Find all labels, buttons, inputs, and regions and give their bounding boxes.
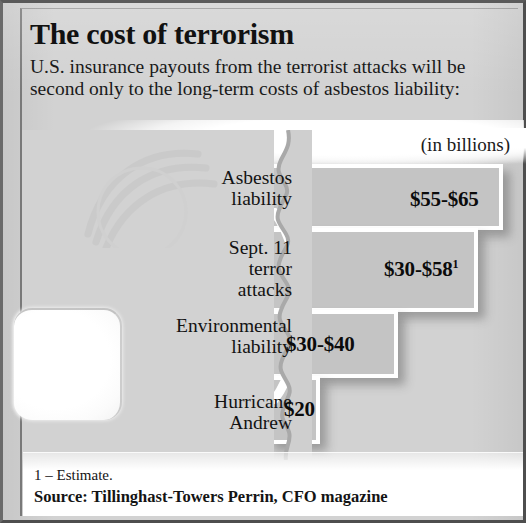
category-label-line1: Environmental	[176, 316, 292, 337]
category-label-line2: Andrew	[214, 413, 292, 434]
page-subtitle: U.S. insurance payouts from the terroris…	[30, 56, 490, 100]
source-line: Source: Tillinghast-Towers Perrin, CFO m…	[34, 487, 504, 507]
category-label-line3: attacks	[229, 280, 292, 301]
category-label-asbestos-liability: Asbestos liability	[222, 168, 292, 210]
bar-value-text: $55-$65	[410, 187, 479, 211]
category-label-line2: terror	[229, 259, 292, 280]
category-label-environmental-liability: Environmental liability	[176, 316, 292, 358]
category-label-line1: Asbestos	[222, 168, 292, 189]
bar-value-text: $20	[284, 397, 315, 421]
bar-value-text: $30-$58	[384, 257, 453, 281]
footnote-estimate: 1 – Estimate.	[34, 466, 504, 485]
category-label-line1: Sept. 11	[229, 238, 292, 259]
category-label-sept-11-terror-attacks: Sept. 11 terror attacks	[229, 238, 292, 301]
category-label-line1: Hurricane	[214, 392, 292, 413]
category-label-line2: liability	[222, 189, 292, 210]
bar-value-environmental-liability: $30-$40	[286, 332, 355, 357]
infographic-page: The cost of terrorism U.S. insurance pay…	[0, 0, 526, 523]
chart-area: (in billions)	[22, 130, 524, 460]
bar-value-hurricane-andrew: $20	[284, 397, 315, 422]
category-label-hurricane-andrew: Hurricane Andrew	[214, 392, 292, 434]
category-label-line2: liability	[176, 337, 292, 358]
footer: 1 – Estimate. Source: Tillinghast-Towers…	[34, 466, 504, 507]
bar-value-text: $30-$40	[286, 332, 355, 356]
bar-value-asbestos-liability: $55-$65	[410, 187, 479, 212]
page-title: The cost of terrorism	[30, 18, 500, 50]
bar-value-sept-11-terror-attacks: $30-$581	[288, 257, 458, 282]
footer-divider	[23, 452, 523, 453]
header: The cost of terrorism U.S. insurance pay…	[30, 18, 500, 100]
bar-value-footnote-marker: 1	[453, 257, 459, 271]
